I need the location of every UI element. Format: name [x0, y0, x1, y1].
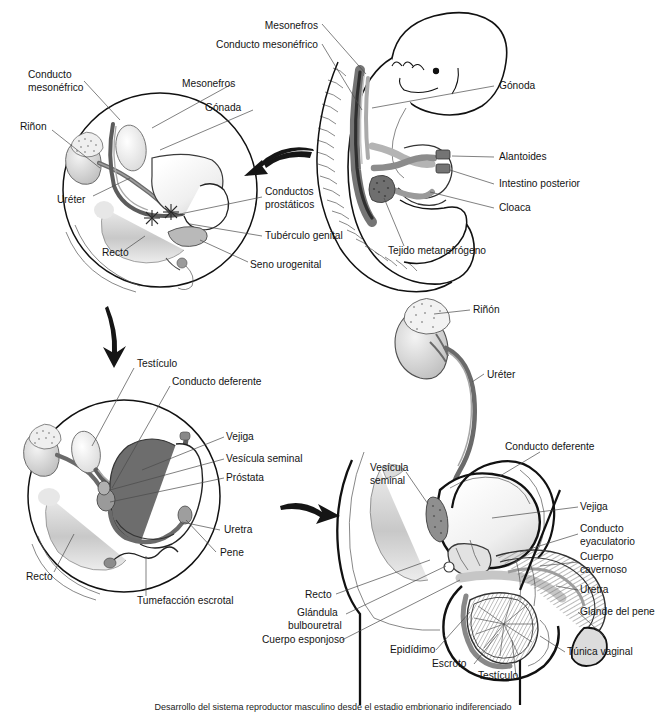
label-uretra-c: Uretra [224, 524, 253, 535]
label-alantoides-b: Alantoides [499, 151, 547, 162]
label-conducto-mesonefrico-b: Conducto mesonéfrico [216, 39, 318, 50]
label-cuerpo-cavernoso-d-line2: cavernoso [580, 564, 627, 575]
label-testiculo-c: Testículo [137, 358, 178, 369]
label-gonada-a: Gónada [205, 102, 242, 113]
label-conducto-mesonefrico-a-line2: mesonéfrico [28, 82, 84, 93]
label-recto-d: Recto [305, 589, 332, 600]
label-rinon-a: Riñon [20, 121, 47, 132]
label-gonoda-b: Gónoda [499, 80, 536, 91]
label-uretra-d: Uretra [580, 584, 609, 595]
label-ureter-a: Uréter [57, 194, 86, 205]
label-glandula-bulbouretral-d: Glándula [297, 607, 338, 618]
panel-c-anal-node [104, 558, 116, 568]
panel-b-gonad [366, 78, 368, 158]
label-glandula-bulbouretral-d-line2: bulbouretral [288, 620, 342, 631]
panel-c-seminal-vesicle [98, 481, 110, 495]
label-mesonefros-b: Mesonefros [265, 20, 318, 31]
label-tunica-vaginal-d: Túnica vaginal [567, 646, 633, 657]
figure-canvas: Conducto mesonéfrico Riñon Uréter Recto … [0, 0, 667, 713]
label-cuerpo-cavernoso-d: Cuerpo [580, 551, 614, 562]
label-intestino-posterior-b: Intestino posterior [499, 178, 581, 189]
panel-b-metanephrogenic-tissue [369, 175, 395, 202]
label-conducto-eyaculatorio-d-line2: eyaculatorio [580, 536, 635, 547]
label-conducto-mesonefrico-a: Conducto [28, 69, 72, 80]
panel-a-cloacal-node [177, 258, 187, 268]
label-vesicula-seminal-d-line2: seminal [370, 475, 405, 486]
label-conductos-prostaticos-a: Conductos [265, 186, 314, 197]
label-conducto-deferente-c: Conducto deferente [172, 376, 262, 387]
panel-c-glans [178, 506, 192, 524]
label-tumefaccion-escrotal-c: Tumefacción escrotal [137, 595, 233, 606]
panel-b-head [392, 13, 507, 115]
label-testiculo-d: Testículo [478, 670, 519, 681]
label-cloaca-b: Cloaca [499, 202, 531, 213]
label-recto-c: Recto [26, 571, 53, 582]
label-rinon-d: Riñón [473, 304, 500, 315]
label-conducto-deferente-d: Conducto deferente [505, 441, 595, 452]
figure-caption: Desarrollo del sistema reproductor mascu… [154, 702, 511, 712]
label-recto-a: Recto [102, 247, 129, 258]
panel-b-allantois-tip [436, 150, 450, 159]
panel-d-bulbourethral-gland [444, 562, 454, 572]
label-conducto-eyaculatorio-d: Conducto [580, 523, 624, 534]
label-vejiga-c: Vejiga [226, 431, 254, 442]
panel-b-hindgut-tip [436, 164, 450, 173]
label-vesicula-seminal-d: Vesícula [370, 462, 409, 473]
panel-c-rectum-cap [38, 488, 60, 506]
label-pene-c: Pene [220, 547, 244, 558]
label-epididimo-d: Epidídimo [390, 644, 436, 655]
label-vejiga-d: Vejiga [580, 501, 608, 512]
label-tejido-metanefrogeno-b: Tejido metanefrógeno [388, 245, 486, 256]
label-ureter-d: Uréter [487, 369, 516, 380]
panel-c-deferens-tip [180, 432, 190, 440]
label-escroto-d: Escroto [432, 658, 467, 669]
label-vesicula-seminal-c: Vesícula seminal [226, 453, 302, 464]
label-seno-urogenital-a: Seno urogenital [250, 259, 321, 270]
label-cuerpo-esponjoso-d: Cuerpo esponjoso [262, 634, 345, 645]
label-conductos-prostaticos-a-line2: prostáticos [265, 199, 314, 210]
label-prostata-c: Próstata [226, 472, 264, 483]
label-mesonefros-a: Mesonefros [182, 78, 235, 89]
anatomy-figure: Conducto mesonéfrico Riñon Uréter Recto … [0, 0, 667, 713]
label-glande-del-pene-d: Glande del pene [580, 606, 655, 617]
panel-a-rectum-cap [94, 201, 114, 219]
